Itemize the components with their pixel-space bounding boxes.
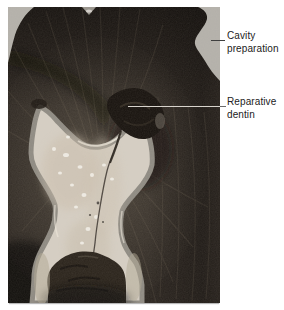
tooth-histology-photo: [8, 7, 220, 303]
figure: Cavity preparation Reparative dentin: [0, 0, 284, 310]
reparative-dentin-leader-line: [220, 106, 226, 107]
photo-grain-overlay: [8, 7, 220, 303]
label-cavity-preparation: Cavity preparation: [227, 30, 284, 55]
label-reparative-dentin: Reparative dentin: [227, 96, 284, 121]
cavity-preparation-leader-line: [211, 40, 225, 41]
